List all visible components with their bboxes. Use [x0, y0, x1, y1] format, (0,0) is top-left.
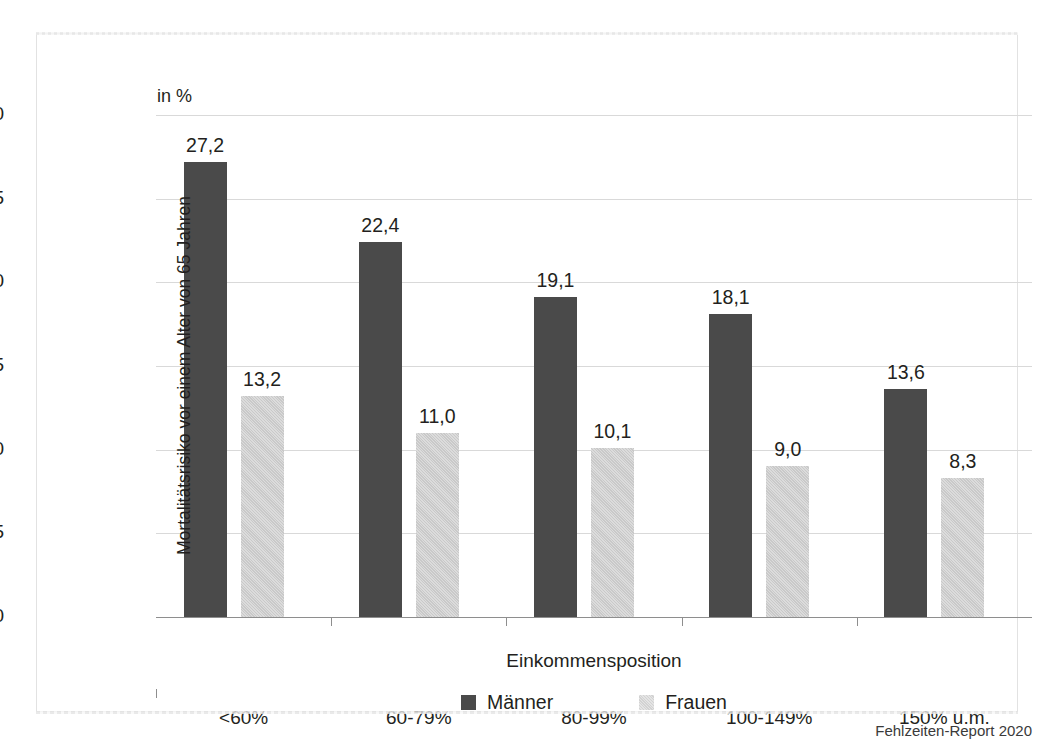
y-axis-title: Mortalitätsrisiko vor einem Alter von 65…: [174, 116, 195, 636]
chart-legend: MännerFrauen: [156, 691, 1032, 714]
source-note: Fehlzeiten-Report 2020: [875, 722, 1032, 739]
y-tick-label-0: 0: [0, 605, 4, 627]
plot-area: 051015202530 27,213,222,411,019,110,118,…: [156, 115, 1032, 617]
bar-männer-4[interactable]: [884, 389, 927, 617]
y-tick-label-20: 20: [0, 270, 4, 292]
bar-value-label-männer-3: 18,1: [693, 286, 768, 309]
gridline-20: [156, 282, 1032, 283]
bar-frauen-4[interactable]: [941, 478, 984, 617]
y-tick-label-5: 5: [0, 521, 4, 543]
legend-swatch-frauen-icon: [639, 695, 654, 710]
x-category-label-2: 80-99%: [506, 707, 681, 729]
bar-value-label-frauen-0: 13,2: [225, 368, 300, 391]
bar-value-label-frauen-3: 9,0: [750, 438, 825, 461]
x-tick-4: [857, 617, 858, 626]
bar-value-label-männer-2: 19,1: [518, 269, 593, 292]
bar-value-label-frauen-4: 8,3: [925, 450, 1000, 473]
x-axis-title: Einkommensposition: [156, 650, 1032, 672]
y-tick-label-10: 10: [0, 438, 4, 460]
legend-swatch-männer-icon: [461, 695, 476, 710]
y-axis-unit-label: in %: [157, 86, 192, 107]
bar-value-label-männer-1: 22,4: [343, 214, 418, 237]
bar-männer-2[interactable]: [534, 297, 577, 617]
bar-frauen-0[interactable]: [241, 396, 284, 617]
y-tick-label-15: 15: [0, 354, 4, 376]
y-tick-label-30: 30: [0, 103, 4, 125]
legend-label-frauen: Frauen: [665, 691, 727, 714]
legend-item-männer[interactable]: Männer: [461, 691, 553, 714]
legend-item-frauen[interactable]: Frauen: [639, 691, 727, 714]
gridline-0: [156, 617, 1032, 618]
page-frame: in % 051015202530 27,213,222,411,019,110…: [36, 33, 1018, 712]
x-category-label-1: 60-79%: [331, 707, 506, 729]
gridline-25: [156, 199, 1032, 200]
x-category-label-3: 100-149%: [682, 707, 857, 729]
gridline-30: [156, 115, 1032, 116]
bar-männer-1[interactable]: [359, 242, 402, 617]
y-tick-label-25: 25: [0, 187, 4, 209]
bar-value-label-frauen-2: 10,1: [575, 420, 650, 443]
bar-frauen-2[interactable]: [591, 448, 634, 617]
x-tick-2: [506, 617, 507, 626]
x-category-label-0: <60%: [156, 707, 331, 729]
bar-value-label-frauen-1: 11,0: [400, 405, 475, 428]
legend-label-männer: Männer: [487, 691, 553, 714]
bar-frauen-1[interactable]: [416, 433, 459, 617]
grouped-bar-chart: in % 051015202530 27,213,222,411,019,110…: [37, 34, 1047, 742]
bar-männer-3[interactable]: [709, 314, 752, 617]
bar-value-label-männer-4: 13,6: [868, 361, 943, 384]
bar-frauen-3[interactable]: [766, 466, 809, 617]
x-tick-3: [682, 617, 683, 626]
x-tick-1: [331, 617, 332, 626]
